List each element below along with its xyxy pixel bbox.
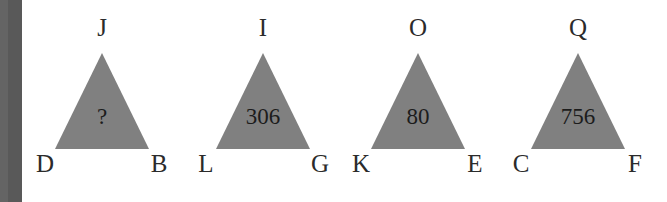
triangle-3-base-right-label: E (460, 150, 490, 178)
triangle-1-shape (55, 53, 149, 149)
triangle-2-inner-value: 306 (216, 104, 310, 130)
triangle-4-shape (531, 53, 625, 149)
triangle-2-shape (216, 53, 310, 149)
triangle-4-base-left-label: C (506, 150, 536, 178)
triangle-3-shape (371, 53, 465, 149)
triangle-2-base-right-label: G (305, 150, 335, 178)
triangle-figure-row: J ? D B I 306 L G O 80 K E Q 756 C F (0, 0, 667, 202)
triangle-1-apex-label: J (55, 14, 149, 42)
triangle-2-base-left-label: L (191, 150, 221, 178)
triangle-3-inner-value: 80 (371, 104, 465, 130)
triangle-4-inner-value: 756 (531, 104, 625, 130)
triangle-2-apex-label: I (216, 14, 310, 42)
triangle-3-apex-label: O (371, 14, 465, 42)
triangle-1-base-left-label: D (30, 150, 60, 178)
triangle-1-inner-value: ? (55, 104, 149, 130)
triangle-3-base-left-label: K (346, 150, 376, 178)
triangle-4-base-right-label: F (620, 150, 650, 178)
triangle-1-base-right-label: B (144, 150, 174, 178)
triangle-4-apex-label: Q (531, 14, 625, 42)
figure-page: J ? D B I 306 L G O 80 K E Q 756 C F (0, 0, 667, 202)
